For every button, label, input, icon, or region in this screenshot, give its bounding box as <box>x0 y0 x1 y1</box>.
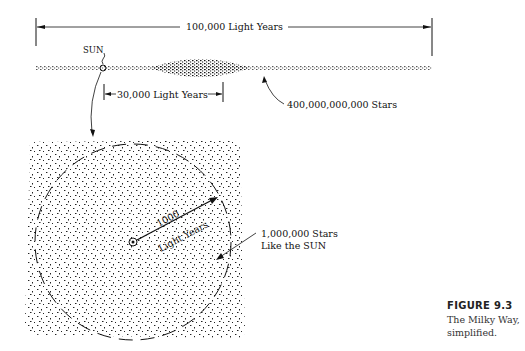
local-stars-line1: 1,000,000 Stars <box>261 229 338 239</box>
star-count-label: 400,000,000,000 Stars <box>287 100 397 110</box>
star-count-arrow <box>265 80 284 104</box>
galaxy-disk <box>36 59 432 77</box>
figure-number: FIGURE 9.3 <box>447 300 520 311</box>
zoom-arrow <box>91 72 101 133</box>
total-width-label: 100,000 Light Years <box>183 22 286 32</box>
local-stars-line2: Like the SUN <box>261 241 326 251</box>
caption-line-2: simplified. <box>447 326 520 339</box>
sun-distance-label: 30,000 Light Years <box>117 90 208 100</box>
figure-caption: FIGURE 9.3 The Milky Way, simplified. <box>447 300 520 339</box>
star-count-arrowhead <box>262 76 267 83</box>
local-star-field <box>25 140 245 338</box>
sun-label: SUN <box>83 46 103 55</box>
zoom-arrowhead <box>90 129 95 137</box>
milky-way-diagram <box>0 0 525 351</box>
caption-line-1: The Milky Way, <box>447 313 520 326</box>
